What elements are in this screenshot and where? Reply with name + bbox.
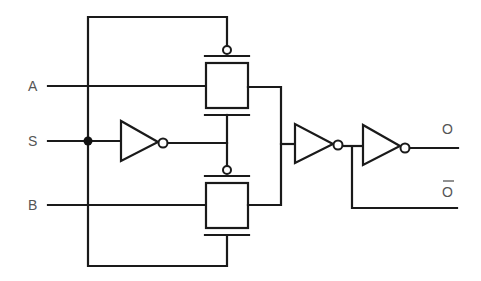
inverter-triangle xyxy=(121,121,158,161)
gate-top-output-wire xyxy=(248,87,281,205)
transmission-gate-body xyxy=(206,63,248,108)
label-input-a: A xyxy=(28,78,38,94)
transmission-gate-body xyxy=(206,183,248,228)
label-input-b: B xyxy=(28,197,37,213)
label-output-o-bar: O xyxy=(442,184,453,200)
output-inverter-1 xyxy=(295,124,343,163)
label-input-s: S xyxy=(28,133,37,149)
inverter-bubble xyxy=(401,144,410,153)
transmission-gate-top xyxy=(205,46,249,115)
output-inverter-2 xyxy=(363,125,410,165)
inverter-bubble xyxy=(334,141,343,150)
inverter-triangle xyxy=(295,124,333,163)
mux-schematic: A S B O O xyxy=(0,0,481,281)
inverter-bubble xyxy=(159,139,168,148)
junction-dot xyxy=(84,137,93,146)
inverter-triangle xyxy=(363,125,400,165)
select-inverter xyxy=(121,121,168,161)
transmission-gate-bottom xyxy=(205,166,249,235)
pmos-gate-bubble xyxy=(223,166,231,174)
label-output-o: O xyxy=(442,121,453,137)
pmos-gate-bubble xyxy=(223,46,231,54)
